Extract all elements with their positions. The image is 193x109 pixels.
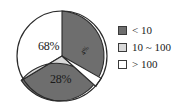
legend-swatch-icon bbox=[118, 26, 127, 35]
pie-slice-label-10-100: 28% bbox=[50, 73, 71, 85]
legend-swatch-icon bbox=[118, 43, 127, 52]
pie-slice-label-lt10: 68% bbox=[38, 40, 59, 52]
legend-item-gt100[interactable]: > 100 bbox=[118, 56, 192, 73]
legend-item-label: > 100 bbox=[132, 59, 157, 70]
pie-chart-graphic: 68% 28% 4% bbox=[16, 10, 108, 102]
legend-item-label: < 10 bbox=[132, 25, 152, 36]
pie-svg bbox=[16, 10, 108, 102]
legend-item-label: 10 ~ 100 bbox=[132, 42, 171, 53]
legend-item-10-100[interactable]: 10 ~ 100 bbox=[118, 39, 192, 56]
pie-chart-figure: 68% 28% 4% < 10 10 ~ 100 > 100 bbox=[0, 0, 193, 109]
legend-item-lt10[interactable]: < 10 bbox=[118, 22, 192, 39]
legend-swatch-icon bbox=[118, 60, 127, 69]
legend: < 10 10 ~ 100 > 100 bbox=[118, 22, 192, 73]
